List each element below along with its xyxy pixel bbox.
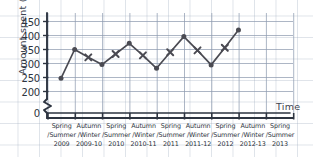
data-point-dot	[154, 66, 159, 71]
data-point-dot	[99, 62, 104, 67]
line-chart: Amount spent (£) 450 400 350 300 250 200…	[0, 0, 313, 157]
data-point-cross	[113, 51, 119, 57]
data-point-dot	[209, 62, 214, 67]
x-label-season-2: /Summer	[263, 131, 297, 140]
data-point-dot	[181, 34, 186, 39]
x-axis-ticks	[43, 22, 294, 120]
data-point-dot	[59, 76, 64, 81]
data-point-dot	[236, 27, 241, 32]
data-point-cross	[85, 54, 91, 60]
x-axis-label-group: Spring/Summer2013	[263, 122, 297, 149]
data-point-cross	[167, 49, 173, 55]
data-point-dot	[127, 41, 132, 46]
x-label-year: 2013	[263, 140, 297, 149]
data-point-dot	[72, 47, 77, 52]
x-label-season: Spring	[263, 122, 297, 131]
data-point-cross	[140, 52, 146, 58]
gridlines	[47, 13, 294, 113]
axis-lines	[44, 13, 293, 118]
data-point-cross	[195, 47, 201, 53]
